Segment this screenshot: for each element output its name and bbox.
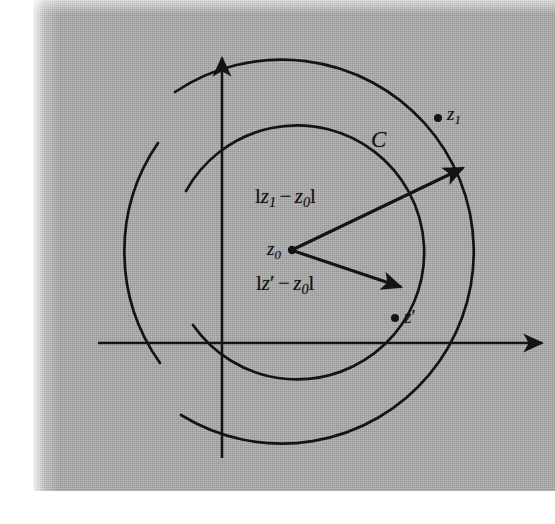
label-modulus-zprime-minus-z0: lz′−z0l xyxy=(256,273,314,296)
modulus-inner-subscript2: 0 xyxy=(301,281,308,297)
radius-vectors xyxy=(294,168,463,287)
point-zprime xyxy=(391,314,399,322)
label-z0: z0 xyxy=(267,239,281,262)
modulus-close-bar: l xyxy=(310,184,316,208)
modulus-inner-close-bar: l xyxy=(309,271,315,295)
modulus-inner-base: z xyxy=(262,271,270,295)
complex-plane-figure xyxy=(0,0,555,524)
modulus-outer-minus: − xyxy=(276,184,295,208)
point-z0 xyxy=(288,246,296,254)
modulus-outer-base: z xyxy=(261,184,269,208)
modulus-inner-minus: − xyxy=(275,271,294,295)
label-modulus-z1-minus-z0: lz1−z0l xyxy=(255,186,316,209)
point-z1 xyxy=(434,114,442,122)
z0-subscript: 0 xyxy=(274,247,280,262)
zprime-prime: ′ xyxy=(411,306,415,327)
label-zprime: z′ xyxy=(404,307,416,326)
modulus-inner-prime: ′ xyxy=(270,271,275,295)
axes-group xyxy=(98,58,542,458)
vector-z1-minus-z0 xyxy=(294,168,463,249)
outer-circle-left-arc xyxy=(124,143,160,363)
label-z1: z1 xyxy=(447,104,461,127)
outer-circle-main-arc xyxy=(175,60,474,444)
modulus-outer-base2: z xyxy=(295,184,303,208)
label-curve-C: C xyxy=(371,128,386,151)
z1-subscript: 1 xyxy=(454,112,460,127)
modulus-outer-subscript2: 0 xyxy=(303,194,310,210)
figure-page: lz1−z0l lz′−z0l z0 z1 z′ C xyxy=(0,0,555,524)
